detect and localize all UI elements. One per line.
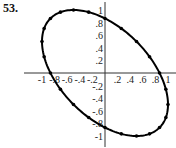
x-tick-label: .8 — [152, 74, 160, 85]
data-point — [72, 103, 76, 107]
y-tick-label: -.4 — [92, 93, 103, 104]
y-tick-label: .6 — [96, 30, 104, 41]
data-point — [158, 126, 162, 130]
data-point — [148, 55, 152, 59]
y-tick-label: .8 — [96, 18, 104, 29]
data-point — [166, 103, 170, 107]
data-point — [59, 10, 63, 14]
x-tick-label: .6 — [139, 74, 147, 85]
x-tick-label: 1 — [166, 74, 171, 85]
data-point — [164, 88, 168, 92]
data-point — [40, 40, 44, 44]
data-point — [103, 17, 107, 21]
data-point — [72, 8, 76, 12]
data-point — [87, 116, 91, 120]
x-tick-label: .4 — [126, 74, 134, 85]
data-point — [164, 116, 168, 120]
y-tick-label: .2 — [96, 55, 104, 66]
data-point — [42, 55, 46, 59]
y-tick-label: -.6 — [92, 106, 103, 117]
data-point — [42, 27, 46, 31]
data-point — [49, 71, 53, 75]
data-point — [87, 10, 91, 14]
x-tick-label: -.6 — [62, 74, 73, 85]
data-point — [148, 132, 152, 136]
ellipse-chart: -1-.8-.6-.4-.2.2.4.6.811.8.6.4.2-.2-.4-.… — [0, 0, 176, 148]
x-tick-label: .2 — [114, 74, 122, 85]
y-tick-label: -.2 — [92, 81, 103, 92]
data-point — [135, 40, 139, 44]
data-point — [59, 88, 63, 92]
data-point — [120, 27, 124, 31]
data-point — [103, 126, 107, 130]
data-point — [49, 17, 53, 21]
data-point — [135, 134, 139, 138]
x-tick-label: -.4 — [74, 74, 85, 85]
y-tick-label: 1 — [98, 5, 103, 16]
y-tick-label: -1 — [95, 131, 103, 142]
x-tick-label: -1 — [38, 74, 46, 85]
data-point — [158, 71, 162, 75]
y-tick-label: .4 — [96, 43, 104, 54]
data-point — [120, 132, 124, 136]
